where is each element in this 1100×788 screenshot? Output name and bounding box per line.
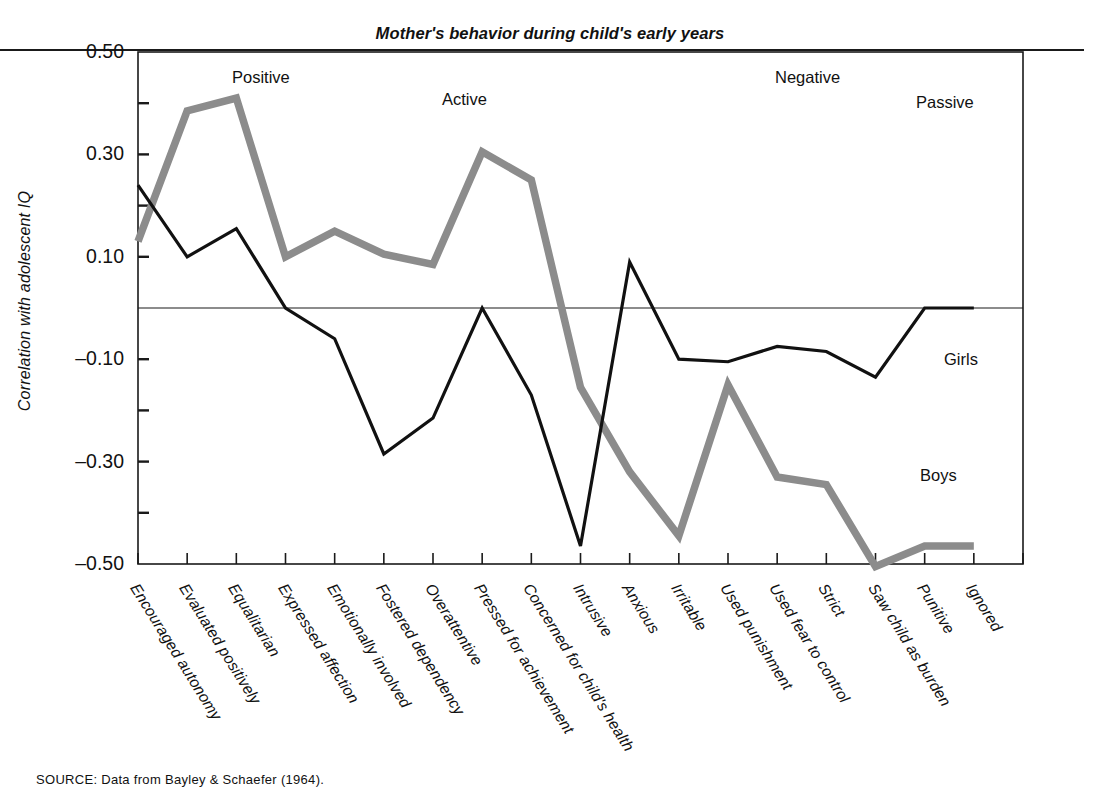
group-label-active: Active (442, 90, 487, 109)
source-note: SOURCE: Data from Bayley & Schaefer (196… (36, 772, 324, 787)
y-tick-label: –0.30 (58, 452, 124, 472)
chart-figure: Mother's behavior during child's early y… (0, 0, 1100, 788)
group-label-positive: Positive (232, 68, 290, 87)
series-label-girls: Girls (944, 350, 978, 369)
y-tick-label: –0.10 (58, 349, 124, 369)
y-tick-label: –0.50 (58, 554, 124, 574)
y-tick-label: 0.50 (58, 42, 124, 62)
series-line-boys (138, 98, 974, 566)
y-tick-label: 0.30 (58, 144, 124, 164)
group-label-passive: Passive (916, 93, 974, 112)
series-label-boys: Boys (920, 466, 957, 485)
y-tick-label: 0.10 (58, 247, 124, 267)
group-label-negative: Negative (775, 68, 840, 87)
series-line-girls (138, 185, 974, 546)
